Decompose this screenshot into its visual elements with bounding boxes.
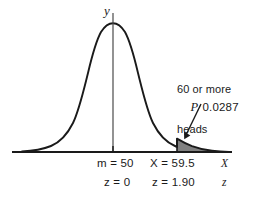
x-axis-cutoff-label: X = 59.5 bbox=[150, 157, 195, 169]
z-axis-mean-label: z = 0 bbox=[104, 176, 130, 188]
z-axis-name-label: z bbox=[222, 176, 227, 188]
z-axis-cutoff-label: z = 1.90 bbox=[152, 176, 195, 188]
x-axis-name-label: X bbox=[221, 157, 228, 169]
probability-value-text: 0.0287 bbox=[202, 101, 238, 113]
normal-distribution-figure: y 60 or more heads P0.0287 m = 50 X = 59… bbox=[0, 0, 256, 199]
x-axis-mean-label: m = 50 bbox=[97, 157, 134, 169]
y-axis-label: y bbox=[104, 3, 110, 19]
tail-probability-label: P0.0287 bbox=[177, 86, 239, 129]
probability-symbol: P bbox=[191, 100, 199, 114]
